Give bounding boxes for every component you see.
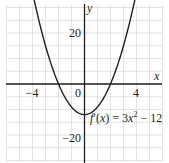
- x-axis-label: x: [153, 69, 160, 83]
- y-axis-label: y: [86, 1, 93, 15]
- x-tick-4: 4: [133, 86, 139, 100]
- function-equation-label: f′(x) = 3x2 − 12: [90, 110, 162, 125]
- origin-label: 0: [75, 86, 81, 100]
- eq-tail: − 12: [137, 111, 162, 125]
- axes: [6, 4, 162, 163]
- x-tick-neg4: −4: [26, 86, 39, 100]
- eq-prime: ′(: [93, 111, 100, 125]
- y-tick-20: 20: [69, 26, 81, 40]
- function-graph: x y −4 0 4 20 −20 f′(x) = 3x2 − 12: [0, 0, 169, 163]
- eq-mid: ) = 3: [105, 111, 128, 125]
- y-tick-neg20: −20: [62, 131, 81, 145]
